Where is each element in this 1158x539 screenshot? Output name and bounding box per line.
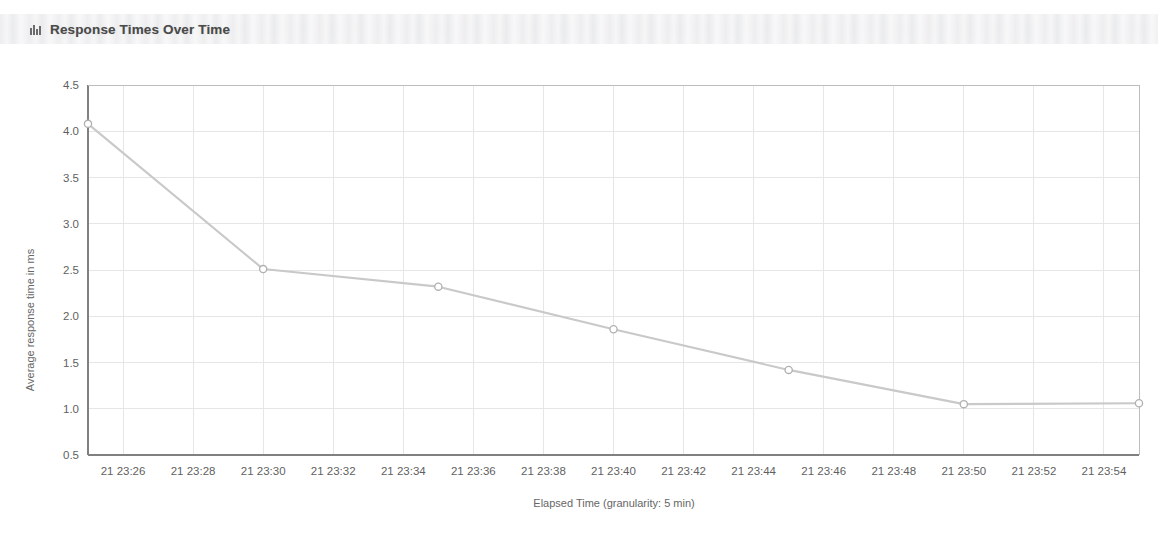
x-tick-labels: 21 23:2621 23:2821 23:3021 23:3221 23:34… bbox=[101, 465, 1127, 477]
y-tick-label: 4.5 bbox=[63, 79, 79, 91]
y-tick-label: 0.5 bbox=[63, 449, 79, 461]
bar-chart-icon bbox=[30, 24, 43, 35]
x-tick-label: 21 23:28 bbox=[171, 465, 216, 477]
y-tick-label: 3.0 bbox=[63, 218, 79, 230]
x-tick-label: 21 23:46 bbox=[801, 465, 846, 477]
response-time-chart: 0.51.01.52.02.53.03.54.04.5 21 23:2621 2… bbox=[0, 52, 1158, 539]
data-point-marker bbox=[785, 366, 792, 373]
panel-header: Response Times Over Time bbox=[30, 17, 230, 41]
x-tick-label: 21 23:52 bbox=[1012, 465, 1057, 477]
data-point-marker bbox=[1135, 400, 1142, 407]
data-point-marker bbox=[960, 401, 967, 408]
x-tick-label: 21 23:36 bbox=[451, 465, 496, 477]
y-tick-label: 3.5 bbox=[63, 172, 79, 184]
x-axis-title: Elapsed Time (granularity: 5 min) bbox=[533, 497, 694, 509]
x-tick-label: 21 23:54 bbox=[1082, 465, 1127, 477]
y-tick-labels: 0.51.01.52.02.53.03.54.04.5 bbox=[63, 79, 79, 461]
x-tick-label: 21 23:26 bbox=[101, 465, 146, 477]
y-tick-label: 2.5 bbox=[63, 264, 79, 276]
x-tick-label: 21 23:38 bbox=[521, 465, 566, 477]
y-axis-title: Average response time in ms bbox=[24, 248, 36, 391]
y-tick-label: 2.0 bbox=[63, 310, 79, 322]
x-tick-label: 21 23:34 bbox=[381, 465, 426, 477]
x-tick-label: 21 23:50 bbox=[941, 465, 986, 477]
x-tick-label: 21 23:32 bbox=[311, 465, 356, 477]
page-title: Response Times Over Time bbox=[50, 22, 230, 37]
chart-canvas: 0.51.01.52.02.53.03.54.04.5 21 23:2621 2… bbox=[0, 52, 1158, 539]
x-tick-label: 21 23:30 bbox=[241, 465, 286, 477]
data-point-marker bbox=[84, 120, 91, 127]
y-tick-label: 1.5 bbox=[63, 357, 79, 369]
x-tick-label: 21 23:40 bbox=[591, 465, 636, 477]
y-tick-label: 4.0 bbox=[63, 125, 79, 137]
x-tick-label: 21 23:48 bbox=[871, 465, 916, 477]
data-point-marker bbox=[260, 265, 267, 272]
data-point-marker bbox=[610, 326, 617, 333]
grid-lines bbox=[88, 85, 1139, 455]
data-point-marker bbox=[435, 283, 442, 290]
x-tick-label: 21 23:44 bbox=[731, 465, 776, 477]
x-tick-label: 21 23:42 bbox=[661, 465, 706, 477]
y-tick-label: 1.0 bbox=[63, 403, 79, 415]
